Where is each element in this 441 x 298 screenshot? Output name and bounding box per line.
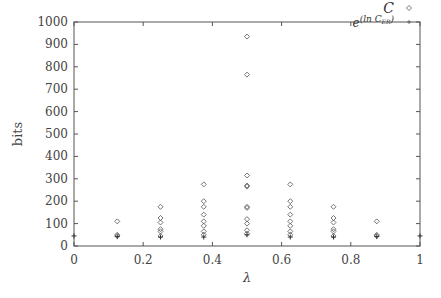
- diamond-marker: [158, 204, 163, 209]
- diamond-marker: [115, 219, 120, 224]
- plot-border: [74, 22, 420, 246]
- plot-frame: [74, 22, 420, 246]
- diamond-marker: [245, 72, 250, 77]
- diamond-marker: [331, 204, 336, 209]
- y-tick-label: 100: [45, 217, 68, 231]
- legend: C e(ln CER): [353, 0, 412, 30]
- y-tick-label: 900: [45, 37, 68, 51]
- y-tick-label: 500: [45, 127, 68, 141]
- y-tick-label: 600: [45, 105, 68, 119]
- y-tick-label: 300: [45, 172, 68, 186]
- y-axis-label: bits: [10, 122, 25, 146]
- y-tick-label: 200: [45, 194, 68, 208]
- x-tick-label: 0.4: [203, 253, 222, 267]
- plus-marker: [418, 233, 423, 238]
- legend-marker-diamond-icon: [407, 6, 412, 11]
- diamond-marker: [201, 182, 206, 187]
- x-axis-label: λ: [242, 270, 251, 285]
- diamond-marker: [288, 182, 293, 187]
- diamond-marker: [288, 204, 293, 209]
- x-tick-label: 0.2: [134, 253, 153, 267]
- diamond-marker: [245, 228, 250, 233]
- diamond-marker: [201, 199, 206, 204]
- y-tick-label: 800: [45, 60, 68, 74]
- diamond-marker: [288, 229, 293, 234]
- legend-marker-plus-icon: [407, 20, 411, 24]
- x-tick-label: 0.8: [341, 253, 360, 267]
- diamond-marker: [245, 34, 250, 39]
- x-axis-ticks: 00.20.40.60.81: [70, 22, 424, 267]
- x-tick-label: 1: [416, 253, 424, 267]
- x-tick-label: 0: [70, 253, 78, 267]
- y-tick-label: 700: [45, 82, 68, 96]
- diamond-marker: [288, 212, 293, 217]
- x-tick-label: 0.6: [272, 253, 291, 267]
- diamond-marker: [288, 199, 293, 204]
- y-tick-label: 1000: [37, 15, 68, 29]
- y-tick-label: 400: [45, 149, 68, 163]
- diamond-marker: [201, 212, 206, 217]
- diamond-marker: [245, 173, 250, 178]
- y-axis-ticks: 01002003004005006007008009001000: [37, 15, 420, 253]
- diamond-marker: [201, 229, 206, 234]
- diamond-marker: [201, 204, 206, 209]
- legend-label-er: e(ln CER): [353, 14, 395, 30]
- diamond-marker: [374, 219, 379, 224]
- plus-marker: [72, 233, 77, 238]
- data-points: [72, 34, 423, 239]
- scatter-chart: 01002003004005006007008009001000 00.20.4…: [0, 0, 441, 298]
- y-tick-label: 0: [60, 239, 68, 253]
